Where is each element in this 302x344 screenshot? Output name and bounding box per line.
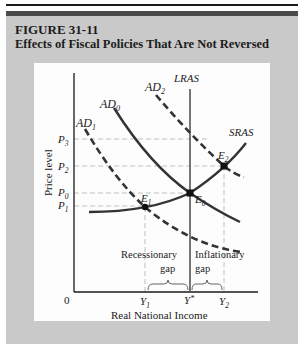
inflationary-gap-label-1: Inflationary (195, 249, 245, 260)
ad1-label: AD1 (75, 116, 96, 132)
ad1-curve (85, 129, 241, 252)
e0-point (187, 190, 194, 197)
ad-as-diagram: LRAS SRAS AD0 AD1 AD2 E0 E1 E2 P3 P2 P0 … (0, 0, 302, 344)
recessionary-gap-label-2: gap (160, 263, 175, 274)
inflationary-brace (192, 280, 222, 290)
e0-label: E0 (194, 193, 206, 208)
y-axis-title: Price level (42, 149, 54, 196)
p2-label: P2 (57, 160, 69, 175)
ad2-label: AD2 (144, 80, 165, 96)
recessionary-brace (148, 280, 188, 290)
recessionary-gap-label-1: Recessionary (121, 249, 178, 260)
ystar-label: Y* (184, 294, 194, 306)
lras-label: LRAS (173, 72, 200, 84)
y1-label: Y1 (140, 295, 150, 310)
p3-label: P3 (57, 133, 69, 148)
origin-label: 0 (64, 294, 70, 306)
x-axis-title: Real National Income (111, 309, 208, 321)
y2-label: Y2 (219, 295, 229, 310)
inflationary-gap-label-2: gap (195, 263, 210, 274)
sras-label: SRAS (229, 126, 254, 138)
ad0-label: AD0 (99, 97, 120, 113)
p1-label: P1 (57, 199, 68, 214)
